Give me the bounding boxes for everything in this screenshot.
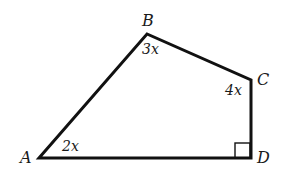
vertex-label-d: D: [257, 150, 270, 166]
angle-label-c: 4x: [225, 83, 242, 97]
vertex-label-a: A: [20, 150, 32, 166]
right-angle-marker: [235, 143, 250, 158]
vertex-label-c: C: [257, 72, 269, 88]
quadrilateral-diagram: A B C D 2x 3x 4x: [0, 0, 287, 177]
angle-label-a: 2x: [62, 139, 79, 153]
vertex-label-b: B: [142, 13, 154, 29]
angle-label-b: 3x: [142, 42, 159, 56]
